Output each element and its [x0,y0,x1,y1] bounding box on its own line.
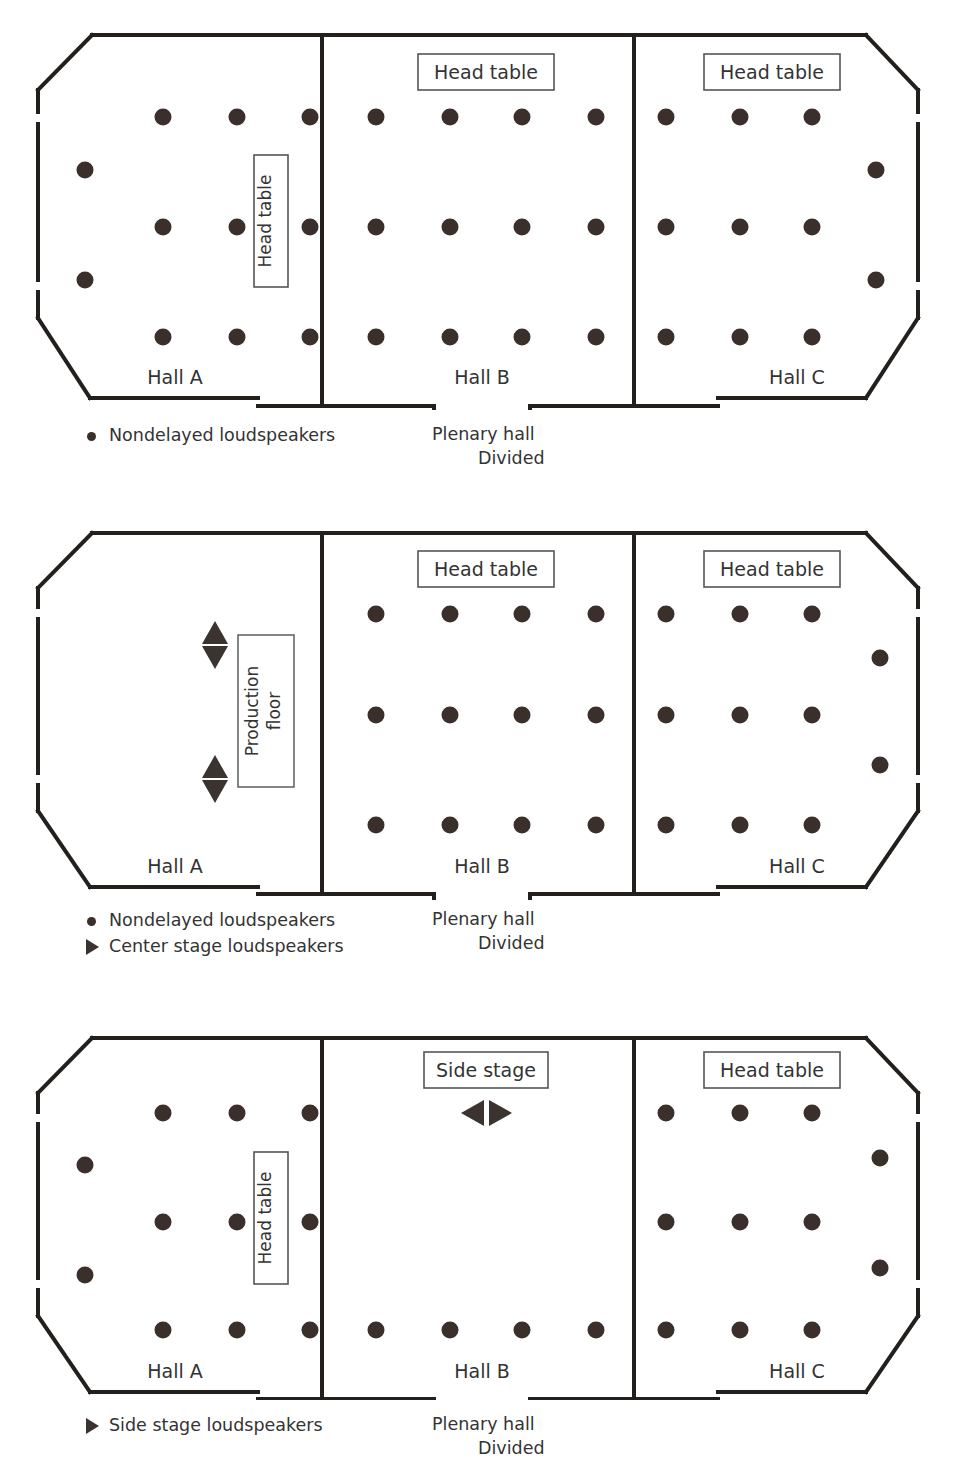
wall-chamfer-top-right [866,35,918,90]
wall-chamfer-top-left [38,1038,92,1093]
floorplan-svg-1: Head table Head table Head table [0,0,976,410]
loudspeaker-dot [872,1260,889,1277]
loudspeaker-dot [155,1214,172,1231]
loudspeaker-dot [302,1322,319,1339]
legend-label-side-stage: Side stage loudspeakers [106,1415,323,1435]
loudspeaker-dot-icon [86,425,106,445]
triangle-up-icon [202,621,228,644]
loudspeaker-dot [514,1322,531,1339]
triangle-down-icon [202,646,228,669]
head-table-hall-c: Head table [704,1052,840,1088]
wall-chamfer-bottom-left [38,1316,90,1392]
production-floor-label-line2: floor [264,692,284,731]
triangle-left-icon [461,1100,484,1126]
head-table-label-c: Head table [720,558,824,580]
triangle-right-icon [489,1100,512,1126]
loudspeaker-dot [658,606,675,623]
hall-label-a: Hall A [147,1360,203,1382]
head-table-hall-a: Head table [254,1152,288,1284]
hall-label-b: Hall B [454,1360,510,1382]
loudspeaker-dot [732,1105,749,1122]
loudspeaker-dot [868,272,885,289]
loudspeaker-dot [155,329,172,346]
loudspeaker-dot [442,707,459,724]
loudspeaker-dot [658,817,675,834]
loudspeaker-dot [368,606,385,623]
loudspeaker-dot [229,1105,246,1122]
loudspeaker-dot-icon [86,910,106,930]
loudspeaker-dot [229,1322,246,1339]
hall-label-c: Hall C [769,855,825,877]
side-stage-box: Side stage [424,1052,548,1088]
wall-chamfer-top-left [38,35,92,90]
loudspeaker-dot [588,219,605,236]
loudspeaker-dot [732,1322,749,1339]
plenary-caption-1: Plenary hall Divided [432,423,545,470]
wall-chamfer-top-right [866,533,918,588]
loudspeaker-dot [442,109,459,126]
loudspeaker-dot [588,606,605,623]
loudspeaker-dot [658,707,675,724]
legend-item-nondelayed: Nondelayed loudspeakers [86,425,335,445]
loudspeaker-dot [302,1214,319,1231]
floorplan-svg-3: Head table Side stage Head table [0,1010,976,1400]
loudspeaker-dot [872,757,889,774]
loudspeaker-dot [658,1322,675,1339]
loudspeaker-dot [658,109,675,126]
hall-label-b: Hall B [454,366,510,388]
loudspeaker-dot [77,1157,94,1174]
loudspeaker-dot [77,162,94,179]
loudspeaker-dot [588,707,605,724]
loudspeaker-dot [302,1105,319,1122]
divided-text: Divided [432,447,545,471]
loudspeaker-dot [804,329,821,346]
loudspeaker-dot [229,329,246,346]
loudspeaker-dot [732,707,749,724]
triangle-right-icon [86,936,106,956]
loudspeaker-dot [588,329,605,346]
loudspeaker-dot [804,1214,821,1231]
loudspeaker-dot [804,606,821,623]
hall-label-c: Hall C [769,366,825,388]
loudspeaker-dot [368,1322,385,1339]
head-table-hall-b: Head table [418,54,554,90]
loudspeaker-dot [442,1322,459,1339]
loudspeaker-group-hall-c [658,606,889,834]
loudspeaker-dot [155,219,172,236]
production-floor-label-line1: Production [242,666,262,756]
loudspeaker-group-hall-b [368,109,605,346]
diagram-plenary-side-stage: Head table Side stage Head table [0,1010,976,1478]
triangle-up-icon [202,755,228,778]
head-table-label-a: Head table [255,175,275,268]
loudspeaker-dot [302,219,319,236]
loudspeaker-dot [872,1150,889,1167]
wall-bottom-notch-left [258,894,466,900]
loudspeaker-group-hall-c [658,1105,889,1339]
loudspeaker-dot [588,109,605,126]
head-table-hall-c: Head table [704,54,840,90]
wall-bottom-notch-right [500,406,718,410]
wall-bottom-notch-right [500,1399,718,1400]
loudspeaker-dot [514,329,531,346]
diagram-plenary-nondelayed: Head table Head table Head table [0,0,976,500]
head-table-label-b: Head table [434,61,538,83]
loudspeaker-dot [514,606,531,623]
plenary-hall-text: Plenary hall [432,424,535,444]
loudspeaker-dot [732,109,749,126]
loudspeaker-dot [368,219,385,236]
hall-label-b: Hall B [454,855,510,877]
plenary-caption-2: Plenary hall Divided [432,908,545,955]
loudspeaker-dot [514,707,531,724]
loudspeaker-dot [442,817,459,834]
loudspeaker-dot [229,1214,246,1231]
loudspeaker-dot [872,650,889,667]
loudspeaker-dot [442,606,459,623]
head-table-label-b: Head table [434,558,538,580]
loudspeaker-dot [155,1322,172,1339]
legend-label-center-stage: Center stage loudspeakers [106,936,344,956]
loudspeaker-dot [442,329,459,346]
hall-label-a: Hall A [147,855,203,877]
loudspeaker-dot [514,109,531,126]
floorplan-svg-2: Production floor Head table Head table [0,495,976,900]
loudspeaker-dot [804,1105,821,1122]
